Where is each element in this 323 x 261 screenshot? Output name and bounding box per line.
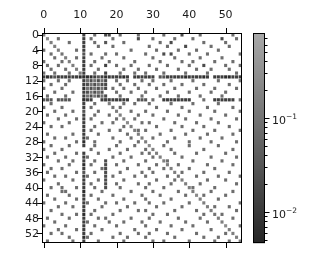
y-tick-label: 44 (13, 196, 39, 209)
y-tick-label: 4 (13, 44, 39, 57)
y-tick-label: 32 (13, 151, 39, 164)
y-tick-label: 20 (13, 105, 39, 118)
y-tick-label: 52 (13, 227, 39, 240)
colorbar-tick-label: 10−1 (272, 110, 297, 127)
y-tick-label: 0 (13, 28, 39, 41)
y-tick-label: 40 (13, 181, 39, 194)
heatmap-plot-canvas (0, 0, 323, 261)
y-tick-label: 28 (13, 135, 39, 148)
x-tick-label: 40 (182, 8, 196, 21)
x-tick-label: 10 (73, 8, 87, 21)
x-tick-label: 30 (146, 8, 160, 21)
y-tick-label: 8 (13, 59, 39, 72)
x-tick-label: 20 (110, 8, 124, 21)
colorbar-tick-label: 10−2 (272, 204, 297, 221)
matrix-heatmap-figure: 01020304050 0481216202428323640444852 10… (0, 0, 323, 261)
y-tick-label: 36 (13, 166, 39, 179)
y-tick-label: 48 (13, 212, 39, 225)
y-tick-label: 12 (13, 74, 39, 87)
x-tick-label: 0 (40, 8, 47, 21)
x-tick-label: 50 (219, 8, 233, 21)
y-tick-label: 16 (13, 90, 39, 103)
y-tick-label: 24 (13, 120, 39, 133)
